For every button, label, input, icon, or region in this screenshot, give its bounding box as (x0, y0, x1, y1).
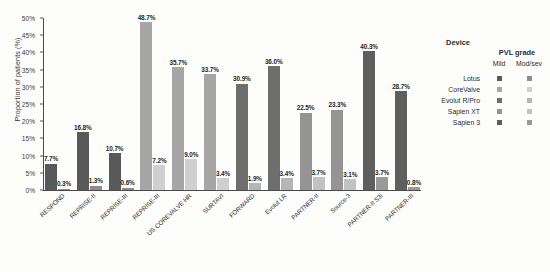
chart-legend: Device PVL grade Mild Mod/sev LotusCoreV… (432, 38, 550, 128)
legend-swatch-cell (484, 87, 514, 92)
bar-mild[interactable]: 7.7% (45, 164, 57, 190)
y-tick-label: 30% (22, 83, 35, 90)
legend-swatch-modsev-icon (527, 120, 532, 125)
bar-value-label: 1.9% (248, 175, 262, 182)
legend-swatch-mild-icon (497, 76, 502, 81)
bar-mild[interactable]: 33.7% (204, 74, 216, 190)
y-tick-label: 25% (22, 101, 35, 108)
legend-swatch-modsev-icon (527, 109, 532, 114)
legend-device-name: Sapien XT (432, 108, 484, 115)
bar-group: 35.7%9.0% (172, 18, 197, 190)
bar-value-label: 3.7% (375, 169, 389, 176)
bar-groups: 7.7%0.3%16.8%1.3%10.7%0.6%48.7%7.2%35.7%… (44, 18, 421, 190)
bar-value-label: 10.7% (106, 145, 124, 152)
bar-mild[interactable]: 16.8% (77, 132, 89, 190)
bar-mild[interactable]: 28.7% (395, 91, 407, 190)
legend-device-name: Evolut R/Pro (432, 97, 484, 104)
bar-value-label: 0.3% (57, 180, 71, 187)
x-tick-label: FORWARD (228, 192, 256, 219)
bar-mild[interactable]: 40.3% (363, 51, 375, 190)
legend-swatch-cell (514, 109, 544, 114)
bar-modsev[interactable]: 7.2% (153, 165, 165, 190)
bar-modsev[interactable]: 3.1% (344, 179, 356, 190)
legend-swatch-mild-icon (497, 87, 502, 92)
y-tick-label: 50% (22, 15, 35, 22)
legend-row[interactable]: Sapien 3 (432, 117, 550, 128)
bar-group: 33.7%3.4% (204, 18, 229, 190)
x-tick-label: PARTNER-III (384, 192, 415, 222)
bar-value-label: 48.7% (138, 14, 156, 21)
bar-modsev[interactable]: 3.7% (313, 177, 325, 190)
legend-swatch-cell (484, 109, 514, 114)
x-axis-labels: RESPONDREPRISE-IIREPRISE-IIIREPRISE-IIIU… (44, 192, 421, 272)
x-tick-label: Source-3 (328, 192, 351, 214)
bar-value-label: 3.4% (280, 170, 294, 177)
bar-modsev[interactable]: 1.9% (249, 183, 261, 190)
legend-swatch-cell (514, 87, 544, 92)
legend-swatch-cell (484, 98, 514, 103)
legend-swatch-modsev-icon (527, 76, 532, 81)
legend-device-title: Device (432, 38, 484, 47)
bar-value-label: 0.6% (121, 179, 135, 186)
y-tick-label: 45% (22, 32, 35, 39)
bar-value-label: 33.7% (201, 66, 219, 73)
y-tick-label: 15% (22, 135, 35, 142)
bar-value-label: 35.7% (169, 59, 187, 66)
x-tick-label: SURTAVI (201, 192, 225, 215)
bar-value-label: 3.1% (343, 171, 357, 178)
bar-modsev[interactable]: 0.8% (408, 187, 420, 190)
legend-swatch-modsev-icon (527, 87, 532, 92)
x-tick-label: PARTNER-II (290, 192, 320, 221)
legend-swatch-cell (514, 120, 544, 125)
bar-modsev[interactable]: 3.4% (281, 178, 293, 190)
legend-swatch-mild-icon (497, 109, 502, 114)
bar-modsev[interactable]: 3.4% (217, 178, 229, 190)
bar-group: 28.7%0.8% (395, 18, 420, 190)
bar-value-label: 40.3% (360, 43, 378, 50)
legend-col-modsev: Mod/sev (514, 60, 544, 67)
bar-modsev[interactable]: 0.6% (122, 188, 134, 190)
bar-group: 48.7%7.2% (140, 18, 165, 190)
bar-mild[interactable]: 23.3% (331, 110, 343, 190)
bar-value-label: 1.3% (89, 177, 103, 184)
bar-modsev[interactable]: 0.3% (58, 189, 70, 190)
legend-row[interactable]: Lotus (432, 73, 550, 84)
legend-row[interactable]: CoreValve (432, 84, 550, 95)
bar-mild[interactable]: 36.0% (268, 66, 280, 190)
bar-chart: Proportion of patients (%) 0%5%10%15%20%… (0, 0, 425, 272)
bar-value-label: 28.7% (392, 83, 410, 90)
bar-modsev[interactable]: 3.7% (376, 177, 388, 190)
bar-mild[interactable]: 22.5% (300, 113, 312, 190)
bar-group: 22.5%3.7% (300, 18, 325, 190)
legend-device-name: Lotus (432, 75, 484, 82)
bar-value-label: 30.9% (233, 75, 251, 82)
bar-mild[interactable]: 10.7% (109, 153, 121, 190)
bar-mild[interactable]: 35.7% (172, 67, 184, 190)
x-tick-label: REPRISE-III (131, 192, 161, 221)
bar-value-label: 0.8% (407, 179, 421, 186)
y-tick-label: 0% (25, 187, 35, 194)
legend-rows: LotusCoreValveEvolut R/ProSapien XTSapie… (432, 73, 550, 128)
y-tick-label: 10% (22, 152, 35, 159)
bar-value-label: 36.0% (265, 58, 283, 65)
legend-row[interactable]: Evolut R/Pro (432, 95, 550, 106)
bar-modsev[interactable]: 1.3% (90, 186, 102, 190)
legend-swatch-modsev-icon (527, 98, 532, 103)
chart-root: Proportion of patients (%) 0%5%10%15%20%… (0, 0, 550, 272)
y-tick-label: 20% (22, 118, 35, 125)
bar-value-label: 3.7% (311, 169, 325, 176)
bar-value-label: 16.8% (74, 124, 92, 131)
y-tick-label: 5% (25, 169, 35, 176)
bar-modsev[interactable]: 9.0% (185, 159, 197, 190)
bar-mild[interactable]: 30.9% (236, 84, 248, 190)
legend-swatch-mild-icon (497, 120, 502, 125)
bar-value-label: 3.4% (216, 170, 230, 177)
y-tick-label: 35% (22, 66, 35, 73)
legend-row[interactable]: Sapien XT (432, 106, 550, 117)
bar-group: 30.9%1.9% (236, 18, 261, 190)
bar-group: 16.8%1.3% (77, 18, 102, 190)
bar-value-label: 22.5% (297, 104, 315, 111)
bar-mild[interactable]: 48.7% (140, 22, 152, 190)
bar-group: 10.7%0.6% (109, 18, 134, 190)
x-tick-label: REPRISE-III (99, 192, 129, 221)
